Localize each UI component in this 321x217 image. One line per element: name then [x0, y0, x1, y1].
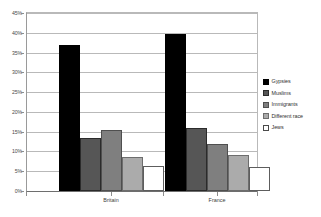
gridline [27, 92, 257, 93]
x-axis: BritainFrance [26, 192, 258, 208]
legend-label: Gypsies [272, 78, 291, 85]
y-tick-mark [21, 171, 24, 172]
legend-label: Jews [272, 124, 284, 131]
gridline [27, 33, 257, 34]
y-tick-mark [21, 191, 24, 192]
legend-label: Different race [272, 113, 304, 120]
x-category-label: France [209, 197, 226, 204]
chart-legend: GypsiesMuslimsImmigrantsDifferent raceJe… [263, 76, 319, 134]
y-tick-mark [21, 92, 24, 93]
gridlines [27, 13, 257, 191]
gridline [27, 151, 257, 152]
legend-label: Immigrants [272, 101, 298, 108]
gridline [27, 132, 257, 133]
gridline [27, 112, 257, 113]
x-tick-mark [163, 192, 164, 196]
legend-item-jews[interactable]: Jews [263, 122, 319, 134]
legend-swatch-icon [263, 90, 269, 96]
y-tick-mark [21, 151, 24, 152]
x-tick-mark [257, 192, 258, 196]
x-tick-mark [111, 192, 112, 196]
legend-swatch-icon [263, 113, 269, 119]
y-tick-mark [21, 13, 24, 14]
y-tick-mark [21, 33, 24, 34]
bar-chart: 0%5%10%15%20%25%30%35%40%45% BritainFran… [0, 0, 321, 217]
legend-item-muslims[interactable]: Muslims [263, 88, 319, 100]
gridline [27, 72, 257, 73]
x-category-label: Britain [103, 197, 118, 204]
legend-swatch-icon [263, 102, 269, 108]
gridline [27, 13, 257, 14]
legend-item-immigrants[interactable]: Immigrants [263, 99, 319, 111]
y-tick-mark [21, 132, 24, 133]
y-tick-mark [21, 72, 24, 73]
y-tick-mark [21, 112, 24, 113]
legend-swatch-icon [263, 125, 269, 131]
legend-item-different-race[interactable]: Different race [263, 111, 319, 123]
gridline [27, 171, 257, 172]
legend-item-gypsies[interactable]: Gypsies [263, 76, 319, 88]
legend-label: Muslims [272, 90, 291, 97]
x-tick-mark [217, 192, 218, 196]
x-tick-mark [26, 192, 27, 196]
y-axis: 0%5%10%15%20%25%30%35%40%45% [0, 12, 24, 192]
plot-area [26, 12, 258, 192]
legend-swatch-icon [263, 79, 269, 85]
gridline [27, 53, 257, 54]
y-tick-mark [21, 53, 24, 54]
